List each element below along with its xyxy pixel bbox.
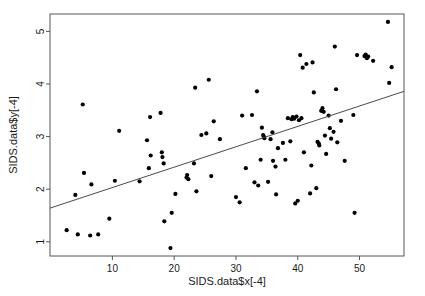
- data-point: [299, 116, 303, 120]
- data-points: [65, 20, 394, 250]
- data-point: [371, 59, 375, 63]
- data-point: [298, 53, 302, 57]
- data-point: [173, 192, 177, 196]
- data-point: [73, 193, 77, 197]
- y-axis-label: SIDS.data$y[-4]: [7, 96, 19, 174]
- y-axis-ticks: 12345: [36, 28, 51, 244]
- y-tick-label: 3: [36, 133, 47, 139]
- data-point: [256, 183, 260, 187]
- data-point: [286, 116, 290, 120]
- data-point: [158, 111, 162, 115]
- data-point: [76, 232, 80, 236]
- data-point: [343, 159, 347, 163]
- trend-line: [50, 91, 404, 208]
- x-tick-label: 50: [354, 263, 366, 274]
- data-point: [314, 186, 318, 190]
- data-point: [186, 177, 190, 181]
- data-point: [170, 211, 174, 215]
- y-tick-label: 1: [36, 239, 47, 245]
- data-point: [308, 191, 312, 195]
- data-point: [209, 174, 213, 178]
- data-point: [294, 114, 298, 118]
- data-point: [351, 113, 355, 117]
- y-tick-label: 4: [36, 81, 47, 87]
- data-point: [271, 159, 275, 163]
- x-axis-ticks: 1020304050: [107, 256, 366, 274]
- data-point: [250, 113, 254, 117]
- data-point: [145, 138, 149, 142]
- data-point: [149, 153, 153, 157]
- data-point: [160, 155, 164, 159]
- data-point: [323, 133, 327, 137]
- data-point: [328, 126, 332, 130]
- data-point: [255, 89, 259, 93]
- data-point: [148, 115, 152, 119]
- data-point: [390, 65, 394, 69]
- data-point: [88, 233, 92, 237]
- data-point: [304, 62, 308, 66]
- data-point: [276, 146, 280, 150]
- data-point: [147, 166, 151, 170]
- plot-frame: [50, 14, 404, 256]
- data-point: [301, 66, 305, 70]
- data-point: [296, 199, 300, 203]
- data-point: [96, 232, 100, 236]
- scatter-plot-figure: 1020304050 12345 SIDS.data$x[-4] SIDS.da…: [0, 0, 425, 296]
- x-tick-label: 40: [292, 263, 304, 274]
- data-point: [234, 195, 238, 199]
- data-point: [207, 78, 211, 82]
- plot-box-border: [50, 14, 404, 256]
- data-point: [339, 119, 343, 123]
- data-point: [117, 129, 121, 133]
- plot-canvas: 1020304050 12345 SIDS.data$x[-4] SIDS.da…: [0, 0, 425, 296]
- data-point: [252, 180, 256, 184]
- data-point: [162, 219, 166, 223]
- data-point: [137, 179, 141, 183]
- x-tick-label: 10: [107, 263, 119, 274]
- data-point: [320, 106, 324, 110]
- data-point: [259, 158, 263, 162]
- data-point: [168, 246, 172, 250]
- data-point: [329, 137, 333, 141]
- data-point: [274, 192, 278, 196]
- data-point: [355, 53, 359, 57]
- data-point: [193, 86, 197, 90]
- data-point: [309, 163, 313, 167]
- data-point: [334, 87, 338, 91]
- y-tick-label: 2: [36, 186, 47, 192]
- data-point: [366, 55, 370, 59]
- data-point: [199, 133, 203, 137]
- data-point: [281, 141, 285, 145]
- data-point: [194, 189, 198, 193]
- data-point: [335, 140, 339, 144]
- data-point: [162, 161, 166, 165]
- data-point: [218, 137, 222, 141]
- data-point: [333, 45, 337, 49]
- data-point: [160, 150, 164, 154]
- data-point: [89, 182, 93, 186]
- data-point: [310, 60, 314, 64]
- data-point: [204, 131, 208, 135]
- y-tick-label: 5: [36, 28, 47, 34]
- data-point: [238, 200, 242, 204]
- data-point: [260, 126, 264, 130]
- data-point: [331, 130, 335, 134]
- x-tick-label: 20: [169, 263, 181, 274]
- regression-line: [50, 91, 404, 208]
- data-point: [240, 113, 244, 117]
- data-point: [266, 180, 270, 184]
- data-point: [268, 137, 272, 141]
- data-point: [192, 161, 196, 165]
- data-point: [244, 166, 248, 170]
- x-tick-label: 30: [230, 263, 242, 274]
- data-point: [324, 152, 328, 156]
- x-axis-label: SIDS.data$x[-4]: [188, 275, 266, 287]
- data-point: [185, 173, 189, 177]
- data-point: [113, 179, 117, 183]
- data-point: [65, 228, 69, 232]
- data-point: [107, 217, 111, 221]
- data-point: [81, 102, 85, 106]
- data-point: [302, 150, 306, 154]
- data-point: [322, 110, 326, 114]
- data-point: [273, 164, 277, 168]
